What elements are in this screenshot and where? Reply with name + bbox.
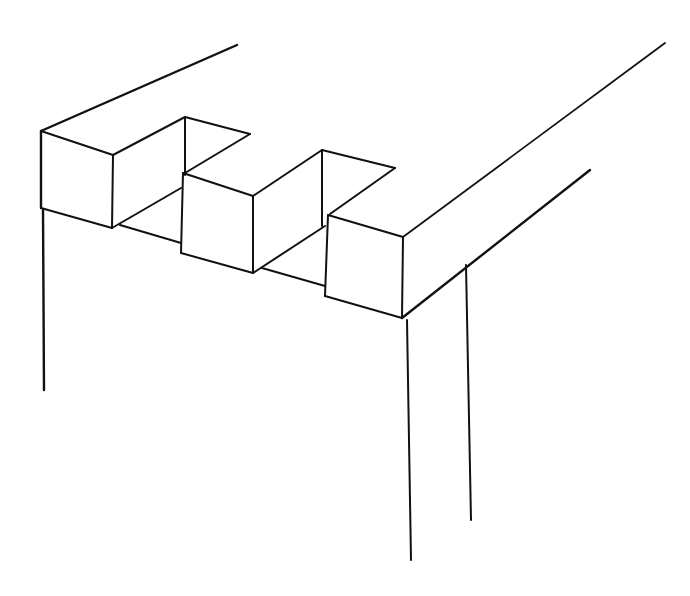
notch1-right-top-edge bbox=[185, 134, 250, 173]
notch2-floor-side-edge bbox=[253, 226, 325, 273]
block1-front-right-edge bbox=[112, 155, 113, 228]
front-post-edge bbox=[407, 320, 411, 560]
notch2-back-top-edge bbox=[322, 150, 395, 168]
beam-top-back-edge bbox=[41, 45, 237, 131]
block3-front-left-edge bbox=[325, 215, 328, 296]
block1-top-side-edge bbox=[113, 117, 185, 155]
drawing-canvas bbox=[0, 0, 690, 596]
notch1-floor-front-edge bbox=[120, 225, 181, 243]
block2-front-left-edge bbox=[181, 173, 183, 253]
block2-top-side-edge bbox=[253, 150, 322, 196]
block3-bottom-front-edge bbox=[325, 296, 402, 318]
block1-bottom-front-edge bbox=[41, 208, 112, 228]
back-post-edge bbox=[466, 265, 471, 520]
beam-bottom-right-edge bbox=[402, 170, 590, 318]
notch1-back-top-edge bbox=[185, 117, 250, 134]
block3-front-right-edge bbox=[402, 237, 403, 318]
notch1-floor-side-edge bbox=[112, 188, 181, 228]
notched-beam-illustration bbox=[0, 0, 690, 596]
left-post-edge bbox=[43, 210, 44, 390]
block2-top-front-edge bbox=[183, 173, 253, 196]
block3-top-front-edge bbox=[328, 215, 403, 237]
beam-top-right-edge bbox=[403, 43, 665, 237]
notch2-floor-front-edge bbox=[262, 268, 325, 286]
block2-bottom-front-edge bbox=[181, 253, 253, 273]
notch2-right-top-edge bbox=[330, 168, 395, 214]
block1-top-front-edge bbox=[41, 131, 113, 155]
